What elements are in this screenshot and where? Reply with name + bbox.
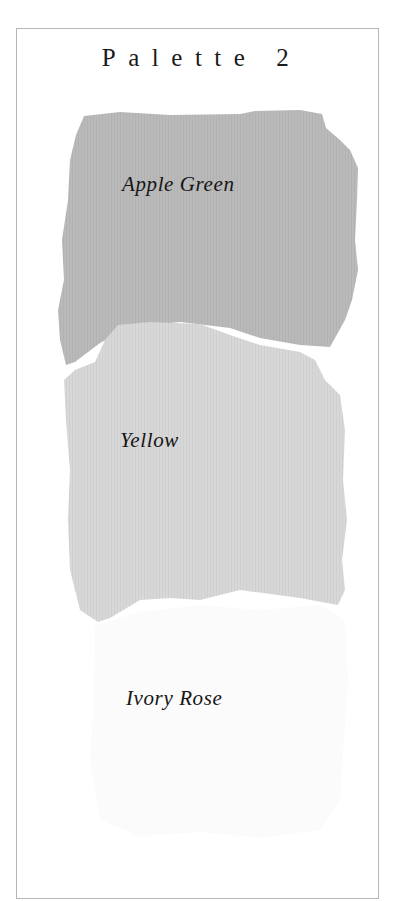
- swatch-label-apple-green: Apple Green: [122, 172, 235, 197]
- swatch-ivory-rose: [90, 605, 348, 838]
- swatch-yellow: [64, 322, 347, 622]
- swatch-apple-green: [58, 110, 358, 365]
- swatch-label-yellow: Yellow: [120, 428, 179, 453]
- swatch-label-ivory-rose: Ivory Rose: [126, 686, 222, 711]
- swatch-shapes: [0, 0, 395, 901]
